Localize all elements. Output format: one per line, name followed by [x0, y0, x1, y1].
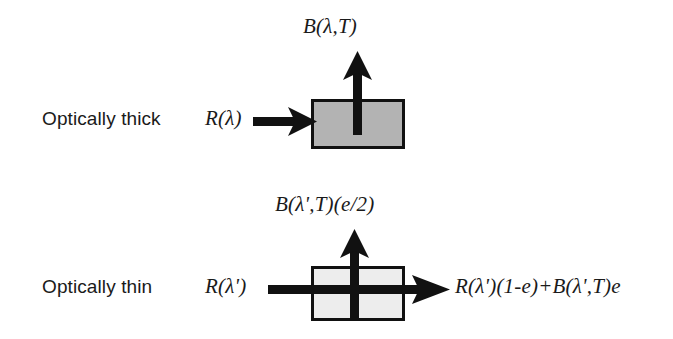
- radiative-transfer-figure: Optically thick R(λ) B(λ,T) Optically th…: [0, 0, 673, 339]
- incoming-arrow-shaft-thick: [253, 117, 300, 126]
- outgoing-label-thin: R(λ')(1-e)+B(λ',T)e: [455, 274, 621, 299]
- emitted-arrow-head-thick: [343, 51, 372, 80]
- medium-box-optically-thick: [311, 99, 405, 149]
- emitted-label-thin: B(λ',T)(e/2): [275, 192, 374, 217]
- incoming-label-thin: R(λ'): [205, 274, 246, 299]
- medium-box-optically-thin: [311, 266, 405, 321]
- row-label-optically-thick: Optically thick: [42, 108, 161, 130]
- incoming-label-thick: R(λ): [205, 106, 242, 131]
- row-label-optically-thin: Optically thin: [42, 276, 152, 298]
- emitted-label-thick: B(λ,T): [303, 14, 357, 39]
- panel-optically-thick: Optically thick R(λ) B(λ,T): [0, 0, 673, 169]
